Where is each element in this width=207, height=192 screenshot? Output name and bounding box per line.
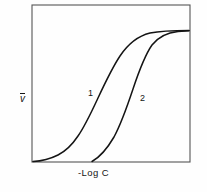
binding-isotherm-figure: v -Log C 1 2 (0, 0, 207, 192)
y-axis-label-text: v (20, 93, 25, 105)
curve-label-2: 2 (140, 93, 145, 103)
y-axis-label: v (8, 82, 25, 116)
figure-background (0, 0, 207, 192)
curve-label-1: 1 (88, 88, 93, 98)
plot-canvas (0, 0, 207, 192)
x-axis-label: -Log C (78, 167, 109, 178)
